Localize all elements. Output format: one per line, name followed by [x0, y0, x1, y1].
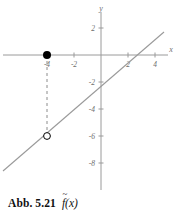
figure-caption: Abb. 5.21 ~f(x) [8, 197, 173, 215]
function-line [3, 32, 164, 171]
x-tick-label-minus2: -2 [71, 60, 77, 69]
y-tick-label-minus4: -4 [89, 105, 95, 114]
y-tick-label-minus8: -8 [89, 159, 95, 168]
function-symbol-arg: (x) [65, 197, 78, 209]
open-point-marker [44, 133, 51, 140]
figure-caption-function: ~f(x) [62, 197, 78, 209]
figure-caption-label: Abb. 5.21 [8, 197, 56, 209]
x-axis-label: x [168, 45, 173, 54]
function-symbol-host: ~f [62, 197, 65, 209]
function-plot: -4 -2 2 4 2 -2 -4 -6 -8 y x [0, 0, 177, 195]
figure-container: -4 -2 2 4 2 -2 -4 -6 -8 y x Abb. 5.21 ~f… [0, 0, 177, 218]
tilde-accent-icon: ~ [62, 190, 67, 199]
function-symbol-base: f [62, 197, 65, 209]
y-axis-label: y [98, 4, 103, 13]
x-tick-label-4: 4 [153, 60, 157, 69]
y-tick-label-2: 2 [91, 24, 95, 33]
filled-point-marker [43, 51, 51, 59]
y-tick-label-minus6: -6 [89, 132, 95, 141]
y-tick-label-minus2: -2 [89, 78, 95, 87]
